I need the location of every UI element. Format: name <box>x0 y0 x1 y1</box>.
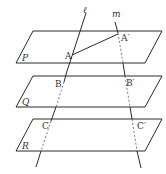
label-point-b-prime: B′ <box>126 78 135 88</box>
label-line-m: m <box>112 9 121 19</box>
plane-q <box>16 76 162 107</box>
label-plane-q: Q <box>22 97 30 107</box>
line-l <box>36 13 86 167</box>
label-plane-r: R <box>21 141 29 151</box>
line-m <box>115 22 141 168</box>
label-point-c: C <box>42 121 49 131</box>
parallel-planes-diagram: ℓ m P Q R A A′ B B′ C C′ <box>0 0 166 174</box>
label-line-l: ℓ <box>83 5 87 15</box>
label-point-b: B <box>55 79 62 89</box>
label-point-c-prime: C′ <box>137 121 146 131</box>
segment-a-a-prime <box>72 34 118 55</box>
label-plane-p: P <box>21 53 29 63</box>
label-point-a-prime: A′ <box>120 33 130 43</box>
label-point-a: A <box>64 51 72 61</box>
